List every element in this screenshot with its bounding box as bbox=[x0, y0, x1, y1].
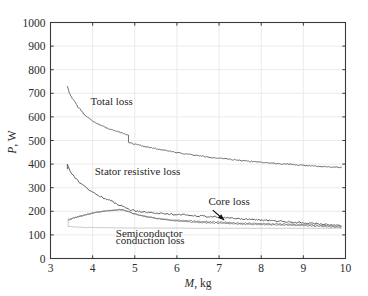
x-tick-label: 8 bbox=[258, 262, 264, 274]
y-tick-label: 100 bbox=[28, 229, 46, 241]
x-tick-label: 9 bbox=[300, 262, 306, 274]
x-tick-label: 7 bbox=[216, 262, 222, 274]
y-tick-label: 600 bbox=[28, 111, 46, 123]
x-axis-title: M, kg bbox=[184, 277, 212, 290]
total-loss-label: Total loss bbox=[91, 95, 133, 107]
y-tick-label: 500 bbox=[28, 135, 46, 147]
y-tick-label: 400 bbox=[28, 158, 46, 170]
y-tick-label: 300 bbox=[28, 182, 46, 194]
x-tick-label: 5 bbox=[132, 262, 138, 274]
semiconductor-label-line2: conduction loss bbox=[116, 234, 185, 246]
x-tick-label: 4 bbox=[90, 262, 96, 274]
y-axis-title: P, W bbox=[6, 130, 19, 155]
x-tick-label: 10 bbox=[340, 262, 352, 274]
y-tick-label: 700 bbox=[28, 87, 46, 99]
x-axis-title-units: , kg bbox=[194, 277, 212, 290]
core-loss-label: Core loss bbox=[209, 195, 250, 207]
x-tick-label: 6 bbox=[174, 262, 180, 274]
y-tick-label: 900 bbox=[28, 40, 46, 52]
loss-breakdown-line-chart: 01002003004005006007008009001000 3456789… bbox=[0, 0, 368, 296]
x-tick-label: 3 bbox=[48, 262, 54, 274]
y-tick-label: 200 bbox=[28, 205, 46, 217]
y-axis-title-symbol: P bbox=[6, 147, 18, 155]
chart-background bbox=[0, 0, 368, 296]
y-tick-label: 800 bbox=[28, 64, 46, 76]
stator-resistive-loss-label: Stator resistive loss bbox=[95, 165, 181, 177]
y-tick-label: 1000 bbox=[23, 17, 46, 29]
chart-figure: 01002003004005006007008009001000 3456789… bbox=[0, 0, 368, 296]
y-axis-title-units: , W bbox=[6, 130, 19, 147]
y-tick-label: 0 bbox=[40, 253, 46, 265]
